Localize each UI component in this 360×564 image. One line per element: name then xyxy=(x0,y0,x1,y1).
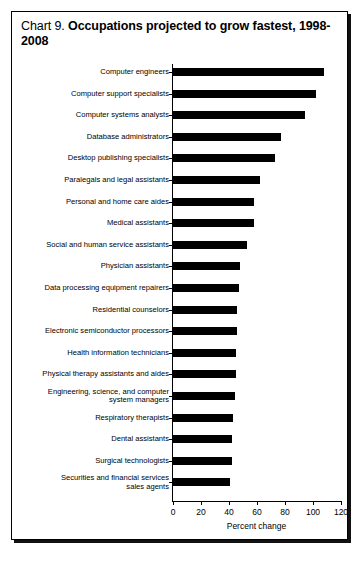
bar-row: Residential counselors xyxy=(12,306,349,318)
bar xyxy=(173,241,247,249)
bar xyxy=(173,414,233,422)
bar xyxy=(173,111,305,119)
bar-row: Dental assistants xyxy=(12,435,349,447)
x-tick xyxy=(341,501,342,505)
bar-row: Computer engineers xyxy=(12,68,349,80)
bar-category-label: Securities and financial services sales … xyxy=(19,474,169,491)
x-tick xyxy=(229,501,230,505)
y-tick xyxy=(169,245,172,246)
bar-category-label: Personal and home care aides xyxy=(19,198,169,207)
bar-category-label: Computer engineers xyxy=(19,68,169,77)
bar-row: Social and human service assistants xyxy=(12,241,349,253)
x-tick-label: 80 xyxy=(270,507,300,517)
bar-category-label: Engineering, science, and computer syste… xyxy=(19,388,169,405)
bar-category-label: Surgical technologists xyxy=(19,457,169,466)
x-tick-label: 0 xyxy=(158,507,188,517)
x-tick-label: 40 xyxy=(214,507,244,517)
bar-row: Desktop publishing specialists xyxy=(12,154,349,166)
bar-category-label: Physical therapy assistants and aides xyxy=(19,370,169,379)
bar xyxy=(173,154,275,162)
bar-row: Securities and financial services sales … xyxy=(12,478,349,490)
bar-row: Surgical technologists xyxy=(12,457,349,469)
y-tick xyxy=(169,482,172,483)
bar xyxy=(173,306,237,314)
y-tick xyxy=(169,72,172,73)
bar xyxy=(173,478,230,486)
y-tick xyxy=(169,353,172,354)
bar xyxy=(173,284,239,292)
bar xyxy=(173,176,260,184)
y-tick xyxy=(169,461,172,462)
bar-row: Data processing equipment repairers xyxy=(12,284,349,296)
x-tick-label: 120 xyxy=(326,507,356,517)
x-tick xyxy=(257,501,258,505)
bar-category-label: Medical assistants xyxy=(19,219,169,228)
bar-row: Physical therapy assistants and aides xyxy=(12,370,349,382)
plot-area: 020406080100120 Computer engineersComput… xyxy=(12,12,349,541)
bar-row: Computer support specialists xyxy=(12,90,349,102)
bar-category-label: Dental assistants xyxy=(19,435,169,444)
y-tick xyxy=(169,266,172,267)
bar-row: Computer systems analysts xyxy=(12,111,349,123)
bar-category-label: Social and human service assistants xyxy=(19,241,169,250)
bar-row: Health information technicians xyxy=(12,349,349,361)
y-tick xyxy=(169,115,172,116)
y-tick xyxy=(169,180,172,181)
x-tick xyxy=(173,501,174,505)
bar xyxy=(173,457,232,465)
bar xyxy=(173,198,254,206)
bar-row: Engineering, science, and computer syste… xyxy=(12,392,349,404)
x-tick-label: 60 xyxy=(242,507,272,517)
x-tick-label: 20 xyxy=(186,507,216,517)
bar xyxy=(173,262,240,270)
x-tick xyxy=(201,501,202,505)
bar xyxy=(173,327,237,335)
bar xyxy=(173,370,236,378)
bar xyxy=(173,133,281,141)
bar-row: Medical assistants xyxy=(12,219,349,231)
bar-row: Respiratory therapists xyxy=(12,414,349,426)
bar xyxy=(173,219,254,227)
bar xyxy=(173,68,324,76)
chart-frame: Chart 9. Occupations projected to grow f… xyxy=(11,11,348,540)
y-tick xyxy=(169,202,172,203)
y-tick xyxy=(169,137,172,138)
x-tick xyxy=(285,501,286,505)
y-tick xyxy=(169,374,172,375)
bar xyxy=(173,90,316,98)
y-tick xyxy=(169,158,172,159)
y-tick xyxy=(169,418,172,419)
bar-category-label: Paralegals and legal assistants xyxy=(19,176,169,185)
bar xyxy=(173,435,232,443)
y-tick xyxy=(169,331,172,332)
bar-category-label: Computer systems analysts xyxy=(19,111,169,120)
y-tick xyxy=(169,310,172,311)
x-axis-label: Percent change xyxy=(172,521,341,531)
bar-category-label: Computer support specialists xyxy=(19,90,169,99)
y-tick xyxy=(169,396,172,397)
x-tick-label: 100 xyxy=(298,507,328,517)
bar-category-label: Data processing equipment repairers xyxy=(19,284,169,293)
bar xyxy=(173,349,236,357)
y-tick xyxy=(169,223,172,224)
bar-row: Database administrators xyxy=(12,133,349,145)
y-tick xyxy=(169,439,172,440)
bar-row: Personal and home care aides xyxy=(12,198,349,210)
bar xyxy=(173,392,235,400)
bar-row: Physician assistants xyxy=(12,262,349,274)
y-tick xyxy=(169,288,172,289)
bar-category-label: Residential counselors xyxy=(19,306,169,315)
bar-category-label: Health information technicians xyxy=(19,349,169,358)
y-tick xyxy=(169,94,172,95)
bar-row: Electronic semiconductor processors xyxy=(12,327,349,339)
bar-category-label: Database administrators xyxy=(19,133,169,142)
x-tick xyxy=(313,501,314,505)
bar-category-label: Desktop publishing specialists xyxy=(19,154,169,163)
bar-row: Paralegals and legal assistants xyxy=(12,176,349,188)
bar-category-label: Physician assistants xyxy=(19,262,169,271)
bar-category-label: Respiratory therapists xyxy=(19,414,169,423)
bar-category-label: Electronic semiconductor processors xyxy=(19,327,169,336)
